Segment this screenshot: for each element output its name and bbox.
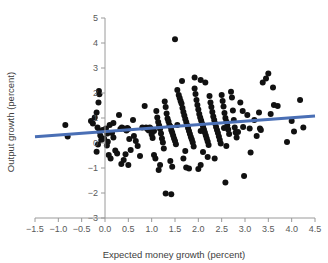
data-point (164, 111, 170, 117)
data-point (207, 93, 213, 99)
data-point (275, 103, 281, 109)
data-point (218, 141, 224, 147)
data-point (108, 156, 114, 162)
chart-canvas: −3−2−1012345 −1.5−1.0−0.50.00.51.01.52.0… (0, 0, 328, 263)
data-point (254, 133, 260, 139)
data-point (160, 140, 166, 146)
x-tick-label: −0.5 (73, 224, 91, 234)
data-point (158, 131, 164, 137)
plot-area (35, 36, 315, 197)
data-point (208, 104, 214, 110)
data-point (229, 95, 235, 101)
x-tick-label: 0.5 (122, 224, 135, 234)
data-point (118, 161, 124, 167)
data-point (205, 154, 211, 160)
data-point (200, 149, 206, 155)
y-tick-label: 3 (93, 63, 98, 73)
data-point (202, 80, 208, 86)
data-point (114, 151, 120, 157)
x-tick-label: 4.0 (285, 224, 298, 234)
data-point (110, 120, 116, 126)
data-point (235, 129, 241, 135)
x-tick-label: 2.5 (215, 224, 228, 234)
data-point (137, 153, 143, 159)
data-point (219, 92, 225, 98)
data-point (228, 89, 234, 95)
scatter-chart-figure: −3−2−1012345 −1.5−1.0−0.50.00.51.01.52.0… (0, 0, 328, 263)
y-axis-title: Output growth (percent) (5, 72, 16, 172)
y-tick-label: 1 (93, 113, 98, 123)
data-point (234, 135, 240, 141)
data-point (116, 112, 122, 118)
data-point (180, 156, 186, 162)
data-point (123, 151, 129, 157)
data-point (152, 156, 158, 162)
data-point (193, 97, 199, 103)
data-point (173, 141, 179, 147)
data-point (297, 97, 303, 103)
data-point (221, 125, 227, 131)
data-point (153, 108, 159, 114)
x-axis-title: Expected money growth (percent) (103, 249, 246, 260)
data-point (130, 117, 136, 123)
data-point (256, 110, 262, 116)
data-point (221, 110, 227, 116)
data-point (150, 135, 156, 141)
data-point (265, 71, 271, 77)
data-point (221, 104, 227, 110)
y-tick-label: 5 (93, 13, 98, 23)
x-tick-label: 3.5 (262, 224, 275, 234)
data-point (110, 135, 116, 141)
data-point (258, 127, 264, 133)
data-point (223, 143, 229, 149)
data-point (270, 85, 276, 91)
x-tick-label: 1.0 (145, 224, 158, 234)
y-tick-label: −2 (88, 188, 98, 198)
data-point (182, 148, 188, 154)
data-point (161, 146, 167, 152)
x-tick-label: 2.0 (192, 224, 205, 234)
data-point (193, 91, 199, 97)
x-tick-label: −1.0 (49, 224, 67, 234)
data-point (191, 144, 197, 150)
x-tick-label: 1.5 (169, 224, 182, 234)
data-point (226, 131, 232, 137)
data-point (195, 166, 201, 172)
y-tick-label: 0 (93, 138, 98, 148)
x-tick-label: −1.5 (26, 224, 44, 234)
data-point (240, 108, 246, 114)
x-tick-group: −1.5−1.0−0.50.00.51.01.52.02.53.03.54.04… (26, 218, 321, 234)
data-point (244, 112, 250, 118)
data-point (142, 103, 148, 109)
data-point (167, 158, 173, 164)
data-point (95, 100, 101, 106)
y-tick-label: 2 (93, 88, 98, 98)
y-tick-label: −1 (88, 163, 98, 173)
data-point (222, 180, 228, 186)
data-point (179, 78, 185, 84)
scatter-points-group (62, 36, 306, 197)
data-point (128, 147, 134, 153)
data-point (172, 36, 178, 42)
x-tick-label: 3.0 (239, 224, 252, 234)
data-point (291, 129, 297, 135)
data-point (192, 86, 198, 92)
data-point (186, 166, 192, 172)
data-point (300, 125, 306, 131)
data-point (241, 173, 247, 179)
data-point (135, 143, 141, 149)
data-point (284, 139, 290, 145)
x-axis: −1.5−1.0−0.50.00.51.01.52.02.53.03.54.04… (26, 218, 321, 234)
data-point (268, 111, 274, 117)
data-point (163, 191, 169, 197)
data-point (220, 98, 226, 104)
data-point (240, 124, 246, 130)
data-point (162, 99, 168, 105)
data-point (94, 149, 100, 155)
data-point (169, 164, 175, 170)
data-point (163, 104, 169, 110)
data-point (198, 128, 204, 134)
data-point (248, 150, 254, 156)
data-point (206, 142, 212, 148)
data-point (247, 126, 253, 132)
